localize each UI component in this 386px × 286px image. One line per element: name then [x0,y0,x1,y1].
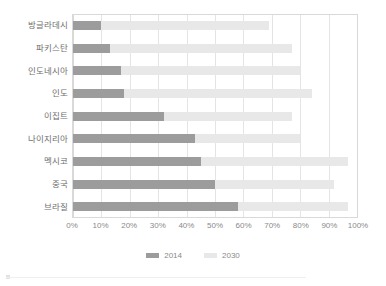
chart-legend: 20142030 [0,251,386,260]
bar-segment-2014 [73,112,164,121]
bar-segment-2014 [73,134,195,143]
bar-chart: 방글라데시파키스탄인도네시아인도이집트나이지리아멕시코중국브라질 0%10%20… [0,0,386,286]
y-axis-category-label: 인도네시아 [0,66,68,76]
y-axis-category-label: 방글라데시 [0,20,68,30]
y-axis-category-label: 인도 [0,88,68,98]
bar-row [73,151,357,174]
legend-item[interactable]: 2030 [204,251,240,260]
legend-item[interactable]: 2014 [146,251,182,260]
bar-segment-2014 [73,44,110,53]
x-axis-tick-label: 0% [66,221,78,230]
legend-swatch-icon [146,253,159,258]
bar-segment-2014 [73,202,238,211]
bar-row [73,196,357,219]
bar-segment-2030 [73,21,269,30]
x-axis-tick-label: 70% [264,221,280,230]
x-axis-tick-label: 50% [207,221,223,230]
x-axis-tick-labels: 0%10%20%30%40%50%60%70%80%90%100% [72,221,358,235]
x-axis-tick-label: 60% [236,221,252,230]
x-axis-tick-label: 10% [93,221,109,230]
bar-rows [73,15,357,217]
bar-row [73,106,357,129]
y-axis-category-label: 파키스탄 [0,43,68,53]
bar-row [73,174,357,197]
legend-label: 2030 [222,251,240,260]
x-axis-tick-label: 40% [178,221,194,230]
bar-segment-2014 [73,157,201,166]
legend-label: 2014 [164,251,182,260]
x-axis-tick-label: 100% [348,221,368,230]
bar-row [73,38,357,61]
y-axis-category-label: 브라질 [0,202,68,212]
plot-area [72,14,358,218]
x-axis-tick-label: 80% [293,221,309,230]
x-axis-tick-label: 90% [321,221,337,230]
bar-segment-2014 [73,21,101,30]
bar-segment-2014 [73,180,215,189]
plot-wrapper: 방글라데시파키스탄인도네시아인도이집트나이지리아멕시코중국브라질 0%10%20… [0,0,386,286]
bar-row [73,128,357,151]
legend-swatch-icon [204,253,217,258]
bar-segment-2014 [73,66,121,75]
y-axis-category-label: 이집트 [0,111,68,121]
y-axis-category-labels: 방글라데시파키스탄인도네시아인도이집트나이지리아멕시코중국브라질 [0,14,68,218]
bottom-divider [6,277,306,278]
y-axis-category-label: 중국 [0,179,68,189]
bar-segment-2014 [73,89,124,98]
y-axis-category-label: 나이지리아 [0,134,68,144]
bar-row [73,15,357,38]
x-axis-tick-label: 20% [121,221,137,230]
gridline [357,15,358,217]
bar-row [73,83,357,106]
bar-row [73,60,357,83]
x-axis-tick-label: 30% [150,221,166,230]
y-axis-category-label: 멕시코 [0,156,68,166]
